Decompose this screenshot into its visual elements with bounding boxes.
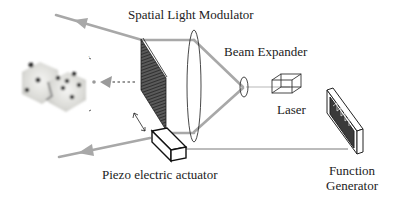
dice-image	[22, 62, 86, 112]
label-spatial-light-modulator: Spatial Light Modulator	[128, 7, 254, 22]
label-function-generator-line2: Generator	[322, 178, 382, 193]
label-function-generator-line1: Function	[322, 163, 382, 178]
label-laser: Laser	[277, 102, 306, 117]
label-function-generator: Function Generator	[322, 163, 382, 193]
double-arrow-icon	[133, 113, 145, 131]
diagram: ˙ Spatial Light Modulator Beam Expander …	[0, 0, 395, 197]
image-projection-arrow	[92, 76, 135, 88]
laser-box	[272, 74, 301, 93]
function-generator	[327, 88, 363, 154]
label-piezo-actuator: Piezo electric actuator	[102, 167, 218, 182]
spatial-light-modulator	[141, 38, 167, 130]
arrowhead-icon	[78, 144, 94, 156]
label-beam-expander: Beam Expander	[224, 44, 307, 59]
large-lens	[187, 30, 201, 142]
